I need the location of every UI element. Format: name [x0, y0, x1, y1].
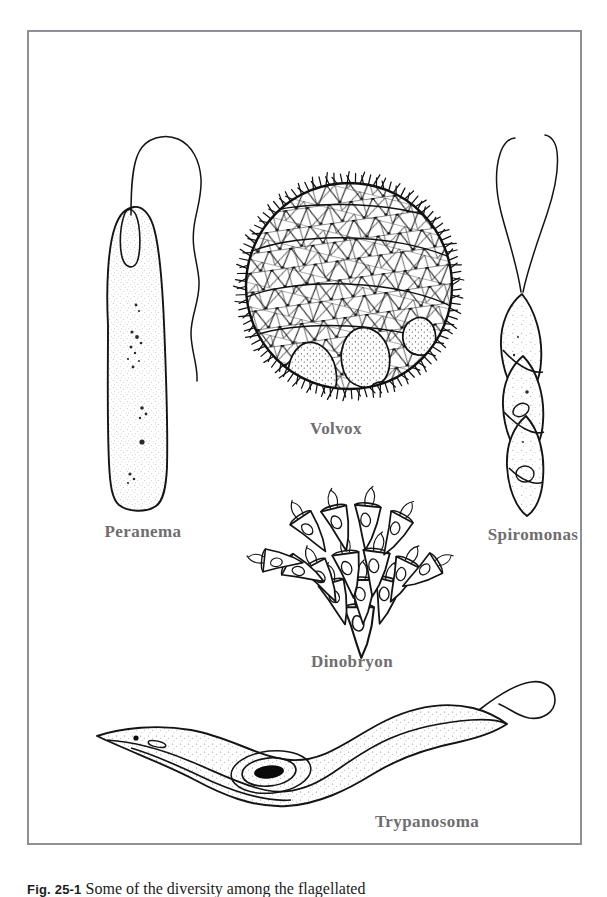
label-spiromonas: Spiromonas: [488, 525, 579, 545]
organism-volvox: [234, 160, 464, 415]
label-peranema: Peranema: [105, 522, 182, 542]
figure-caption-text: Some of the diversity among the flagella…: [86, 880, 366, 897]
label-trypanosoma: Trypanosoma: [375, 812, 479, 832]
figure-plate-inner: Peranema Volvox Spiromonas Dinobryon Try…: [29, 32, 580, 843]
organism-peranema: [84, 127, 224, 522]
figure-number: Fig. 25-1: [27, 882, 82, 897]
figure-plate: Peranema Volvox Spiromonas Dinobryon Try…: [27, 30, 582, 845]
figure-caption: Fig. 25-1 Some of the diversity among th…: [27, 879, 587, 897]
label-dinobryon: Dinobryon: [311, 652, 393, 672]
trypanosoma-flagellum: [479, 682, 555, 719]
label-volvox: Volvox: [310, 419, 362, 439]
organism-trypanosoma: [91, 662, 561, 822]
volvox-colony-sphere: [234, 160, 464, 422]
peranema-cell-body: [107, 207, 167, 511]
spiromonas-cell-body: [501, 294, 544, 516]
spiromonas-flagella: [497, 135, 558, 292]
organism-spiromonas: [457, 124, 580, 524]
organism-dinobryon: [262, 460, 457, 652]
